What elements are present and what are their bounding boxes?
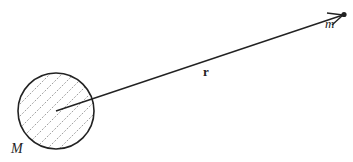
mass-body-label: M xyxy=(11,142,23,156)
position-vector xyxy=(56,15,343,111)
gravitation-diagram: m r M xyxy=(0,0,353,162)
diagram-graphic xyxy=(0,0,353,162)
test-mass-label: m xyxy=(325,17,334,30)
test-mass-dot xyxy=(341,12,346,17)
vector-label: r xyxy=(203,65,209,78)
